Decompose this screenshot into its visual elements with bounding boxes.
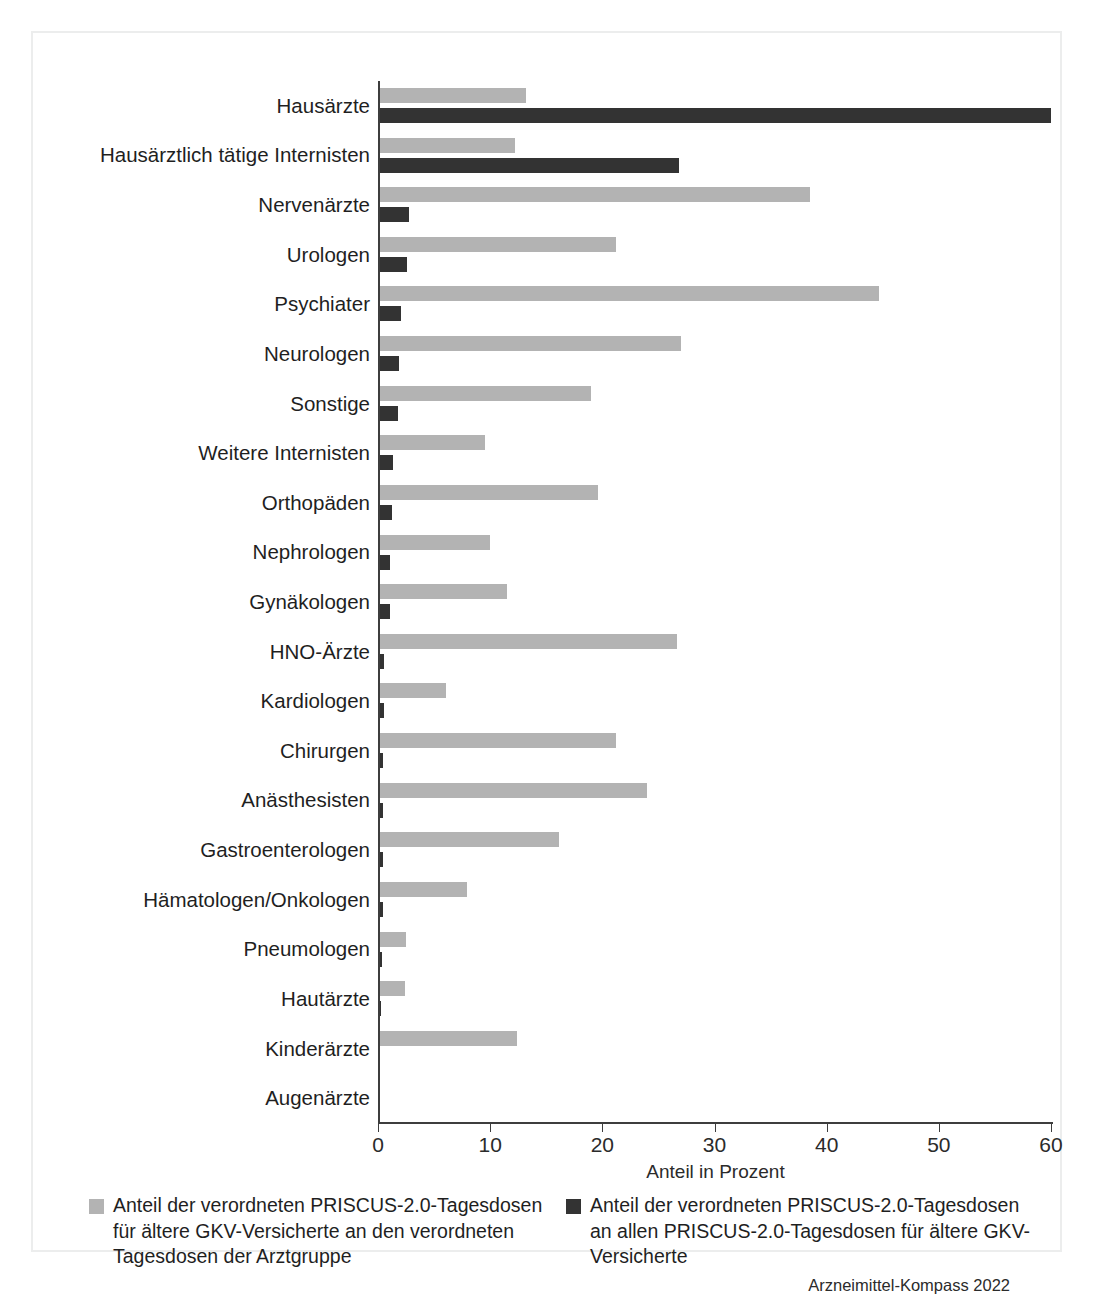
bar-series-light	[380, 882, 467, 897]
bar-series-dark	[380, 1001, 381, 1016]
category-label: Chirurgen	[280, 739, 370, 763]
category-label: Gynäkologen	[249, 590, 370, 614]
bar-series-dark	[380, 852, 383, 867]
x-axis-tick-label: 10	[478, 1133, 501, 1157]
category-label: Sonstige	[290, 392, 370, 416]
bar-series-dark	[380, 753, 383, 768]
bar-series-light	[380, 435, 485, 450]
bar-series-light	[380, 733, 616, 748]
x-axis-tick	[939, 1124, 940, 1132]
x-axis-tick	[715, 1124, 716, 1132]
bar-series-light	[380, 981, 405, 996]
category-label: Weitere Internisten	[198, 441, 370, 465]
category-label: Urologen	[287, 243, 370, 267]
bar-row: Chirurgen	[33, 726, 1064, 776]
bar-series-light	[380, 683, 446, 698]
bar-series-dark	[380, 257, 407, 272]
category-label: HNO-Ärzte	[270, 640, 370, 664]
dark-swatch	[566, 1199, 581, 1214]
bar-row: Gastroenterologen	[33, 825, 1064, 875]
bar-row: Hausärzte	[33, 81, 1064, 131]
bar-series-dark	[380, 803, 383, 818]
category-label: Augenärzte	[265, 1086, 370, 1110]
bar-row: Kardiologen	[33, 676, 1064, 726]
bar-series-dark	[380, 505, 392, 520]
bar-series-dark	[380, 356, 399, 371]
category-label: Orthopäden	[262, 491, 370, 515]
bar-series-light	[380, 535, 490, 550]
bar-series-dark	[380, 455, 393, 470]
bar-series-light	[380, 1031, 517, 1046]
x-axis-tick	[602, 1124, 603, 1132]
x-axis-tick	[1051, 1124, 1052, 1132]
bar-series-light	[380, 237, 616, 252]
x-axis-tick-label: 30	[703, 1133, 726, 1157]
bar-row: Nephrologen	[33, 528, 1064, 578]
x-axis-tick-label: 50	[927, 1133, 950, 1157]
bar-series-light	[380, 832, 559, 847]
x-axis-title: Anteil in Prozent	[378, 1161, 1053, 1183]
bar-row: Psychiater	[33, 279, 1064, 329]
legend-entry-dark: Anteil der verordneten PRISCUS-2.0-Tages…	[566, 1193, 1046, 1270]
bar-row: Urologen	[33, 230, 1064, 280]
bar-row: Gynäkologen	[33, 577, 1064, 627]
bar-row: Hautärzte	[33, 974, 1064, 1024]
category-label: Hautärzte	[281, 987, 370, 1011]
bar-series-dark	[380, 902, 383, 917]
category-label: Hämatologen/Onkologen	[143, 888, 370, 912]
bar-row: Hausärztlich tätige Internisten	[33, 131, 1064, 181]
bar-series-light	[380, 932, 406, 947]
bar-row: Augenärzte	[33, 1073, 1064, 1123]
x-axis-tick-label: 0	[372, 1133, 384, 1157]
category-label: Nephrologen	[253, 540, 370, 564]
bar-series-dark	[380, 703, 384, 718]
category-label: Hausärzte	[277, 94, 370, 118]
legend-label-dark: Anteil der verordneten PRISCUS-2.0-Tages…	[590, 1193, 1046, 1270]
bar-series-dark	[380, 654, 384, 669]
light-gray-swatch	[89, 1199, 104, 1214]
bar-series-dark	[380, 158, 679, 173]
bar-row: Hämatologen/Onkologen	[33, 875, 1064, 925]
x-axis-tick	[378, 1124, 379, 1132]
bar-row: Sonstige	[33, 379, 1064, 429]
bar-series-dark	[380, 108, 1051, 123]
chart-frame: HausärzteHausärztlich tätige Internisten…	[31, 31, 1062, 1252]
bar-series-light	[380, 88, 526, 103]
bar-series-dark	[380, 555, 390, 570]
bar-row: Weitere Internisten	[33, 428, 1064, 478]
category-label: Gastroenterologen	[200, 838, 370, 862]
x-axis-tick	[490, 1124, 491, 1132]
category-label: Pneumologen	[243, 937, 370, 961]
legend-label-light: Anteil der verordneten PRISCUS-2.0-Tages…	[113, 1193, 566, 1270]
legend-entry-light: Anteil der verordneten PRISCUS-2.0-Tages…	[66, 1193, 566, 1270]
x-axis-tick-label: 40	[815, 1133, 838, 1157]
source-credit: Arzneimittel-Kompass 2022	[808, 1276, 1010, 1295]
category-label: Nervenärzte	[258, 193, 370, 217]
x-axis-tick	[827, 1124, 828, 1132]
category-label: Anästhesisten	[241, 788, 370, 812]
bar-series-light	[380, 386, 591, 401]
category-label: Kardiologen	[261, 689, 370, 713]
bar-row: Neurologen	[33, 329, 1064, 379]
category-label: Neurologen	[264, 342, 370, 366]
category-label: Psychiater	[274, 292, 370, 316]
bar-row: Nervenärzte	[33, 180, 1064, 230]
bar-row: Orthopäden	[33, 478, 1064, 528]
bar-series-dark	[380, 604, 390, 619]
bar-row: HNO-Ärzte	[33, 627, 1064, 677]
bar-series-light	[380, 187, 810, 202]
bar-series-dark	[380, 952, 382, 967]
bar-row: Pneumologen	[33, 925, 1064, 975]
bar-series-light	[380, 485, 598, 500]
bar-series-light	[380, 336, 681, 351]
bar-series-dark	[380, 207, 409, 222]
category-label: Hausärztlich tätige Internisten	[100, 143, 370, 167]
bar-row: Anästhesisten	[33, 776, 1064, 826]
bar-series-dark	[380, 406, 398, 421]
bar-series-light	[380, 584, 507, 599]
bar-series-dark	[380, 306, 401, 321]
category-label: Kinderärzte	[265, 1037, 370, 1061]
x-axis-tick-label: 20	[591, 1133, 614, 1157]
chart-page: HausärzteHausärztlich tätige Internisten…	[0, 0, 1093, 1309]
bar-series-light	[380, 634, 677, 649]
